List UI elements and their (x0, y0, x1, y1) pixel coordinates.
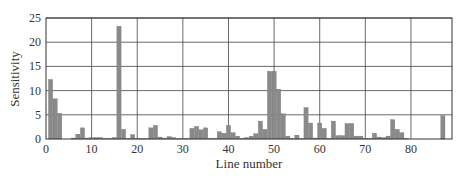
bar (76, 134, 80, 139)
x-tick-label: 60 (314, 142, 326, 156)
x-tick-label: 10 (86, 142, 98, 156)
bar (194, 126, 198, 139)
y-axis-label: Sensitivity (7, 51, 22, 107)
bar (331, 121, 335, 139)
bar (254, 134, 258, 139)
x-axis-label: Line number (216, 156, 283, 171)
y-tick-label: 15 (29, 59, 41, 73)
bar (308, 123, 312, 139)
bar (53, 99, 57, 139)
bar (336, 136, 340, 139)
x-axis-ticks: 01020304050607080 (43, 142, 417, 156)
bar (204, 128, 208, 139)
bar (272, 71, 276, 139)
bar (231, 133, 235, 139)
x-tick-label: 40 (222, 142, 234, 156)
bar (117, 26, 121, 139)
bar (153, 125, 157, 139)
x-tick-label: 30 (177, 142, 189, 156)
y-tick-label: 10 (29, 84, 41, 98)
bars (48, 26, 445, 139)
x-tick-label: 20 (131, 142, 143, 156)
bar (400, 133, 404, 139)
y-tick-label: 25 (29, 11, 41, 25)
bar (372, 133, 376, 139)
bar (395, 129, 399, 139)
bar (281, 114, 285, 139)
bar (149, 128, 153, 139)
y-axis-ticks: 0510152025 (29, 11, 41, 146)
bar (350, 124, 354, 139)
x-tick-label: 80 (405, 142, 417, 156)
sensitivity-bar-chart: 01020304050607080 0510152025 Line number… (0, 0, 467, 179)
bar (318, 123, 322, 139)
y-tick-label: 5 (35, 108, 41, 122)
bar (267, 71, 271, 139)
bar (277, 89, 281, 139)
bar (222, 133, 226, 139)
x-tick-label: 70 (359, 142, 371, 156)
bar (258, 121, 262, 139)
bar (217, 132, 221, 139)
x-tick-label: 0 (43, 142, 49, 156)
bar (226, 125, 230, 139)
bar (80, 128, 84, 139)
bar (263, 129, 267, 139)
bar (304, 108, 308, 139)
bar (441, 116, 445, 139)
bar (391, 120, 395, 139)
bar (48, 79, 52, 139)
bar (121, 129, 125, 139)
bar (340, 136, 344, 139)
x-tick-label: 50 (268, 142, 280, 156)
bar (58, 113, 62, 139)
bar (322, 128, 326, 139)
y-tick-label: 20 (29, 35, 41, 49)
bar (345, 124, 349, 139)
bar (199, 130, 203, 139)
bar (295, 135, 299, 139)
bar (190, 128, 194, 139)
bar (131, 135, 135, 139)
y-tick-label: 0 (35, 132, 41, 146)
